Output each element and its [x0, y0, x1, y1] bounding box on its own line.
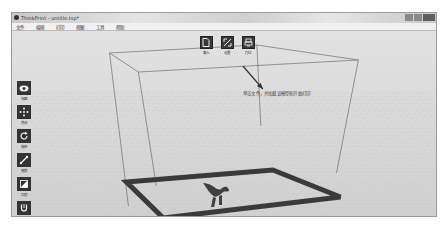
- rotate-label: 旋转: [21, 144, 27, 149]
- mirror-label: 镜像: [21, 216, 27, 217]
- scale-icon: [17, 153, 31, 167]
- view-button[interactable]: 视图: [16, 81, 32, 101]
- build-volume-scene: [12, 31, 436, 217]
- app-window: ThinkPrint - untitle.tsp* 文件 编辑 打印 视图 工具…: [11, 12, 437, 217]
- menu-bar: 文件 编辑 打印 视图 工具 帮助: [12, 23, 436, 31]
- move-button[interactable]: 移动: [16, 105, 32, 125]
- window-title: ThinkPrint - untitle.tsp*: [21, 14, 79, 22]
- file-open-icon: [200, 36, 213, 49]
- load-button[interactable]: 载入: [199, 36, 213, 55]
- top-toolbar: 载入 设置 打印: [199, 36, 255, 55]
- 3d-viewport[interactable]: 载入 设置 打印 视图: [12, 31, 436, 217]
- menu-file[interactable]: 文件: [16, 24, 24, 30]
- settings-pen-icon: [221, 36, 234, 49]
- move-label: 移动: [21, 120, 27, 125]
- minimize-button[interactable]: [405, 14, 413, 21]
- magnet-icon: [17, 201, 31, 215]
- window-controls: [404, 14, 435, 21]
- settings-label: 设置: [224, 50, 230, 55]
- menu-edit[interactable]: 编辑: [36, 24, 44, 30]
- instruction-hint: 单击文件，并加载该模型和开始打印: [243, 90, 310, 96]
- print-button[interactable]: 打印: [241, 36, 255, 55]
- scale-label: 缩放: [21, 168, 27, 173]
- menu-print[interactable]: 打印: [56, 24, 64, 30]
- cut-icon: [17, 177, 31, 191]
- title-bar[interactable]: ThinkPrint - untitle.tsp*: [12, 13, 436, 23]
- print-icon: [242, 36, 255, 49]
- close-button[interactable]: [423, 14, 435, 21]
- rotate-icon: [17, 129, 31, 143]
- load-label: 载入: [203, 50, 209, 55]
- rotate-button[interactable]: 旋转: [16, 129, 32, 149]
- side-toolbar: 视图 移动 旋转 缩放: [16, 81, 32, 217]
- cut-button[interactable]: 切割: [16, 177, 32, 197]
- cut-label: 切割: [21, 192, 27, 197]
- maximize-button[interactable]: [414, 14, 422, 21]
- settings-button[interactable]: 设置: [220, 36, 234, 55]
- print-label: 打印: [245, 50, 251, 55]
- app-icon: [14, 15, 19, 20]
- menu-tools[interactable]: 工具: [96, 24, 104, 30]
- move-icon: [17, 105, 31, 119]
- mirror-button[interactable]: 镜像: [16, 201, 32, 217]
- view-label: 视图: [21, 96, 27, 101]
- eye-icon: [17, 81, 31, 95]
- menu-help[interactable]: 帮助: [116, 24, 124, 30]
- menu-view[interactable]: 视图: [76, 24, 84, 30]
- scale-button[interactable]: 缩放: [16, 153, 32, 173]
